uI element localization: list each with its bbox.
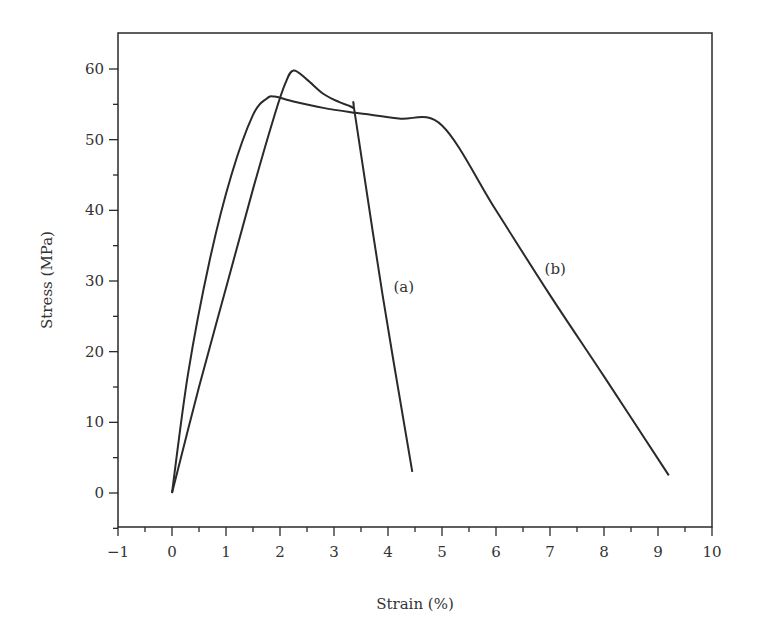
y-tick-label: 10 (85, 413, 104, 431)
y-tick-label: 0 (94, 484, 104, 502)
x-tick-label: 10 (702, 543, 721, 561)
x-axis-ticks: −1012345678910 (107, 527, 722, 561)
x-tick-label: 8 (599, 543, 609, 561)
annotations: (a)(b) (393, 260, 566, 296)
x-tick-label: 9 (653, 543, 663, 561)
y-tick-label: 40 (85, 201, 104, 219)
y-axis-ticks: 0102030405060 (85, 60, 118, 528)
y-tick-label: 50 (85, 131, 104, 149)
series-annotation: (a) (393, 278, 414, 296)
stress-strain-chart: −1012345678910 0102030405060 (a)(b) Stra… (0, 0, 757, 640)
series-line-b (172, 96, 669, 493)
x-tick-label: 2 (275, 543, 285, 561)
x-tick-label: 3 (329, 543, 339, 561)
x-tick-label: 1 (221, 543, 231, 561)
y-axis-label: Stress (MPa) (38, 231, 56, 329)
series-layer (172, 70, 669, 493)
x-tick-label: 0 (167, 543, 177, 561)
x-axis-label: Strain (%) (376, 595, 454, 613)
y-tick-label: 20 (85, 343, 104, 361)
x-tick-label: 4 (383, 543, 393, 561)
x-tick-label: 7 (545, 543, 555, 561)
x-tick-label: 5 (437, 543, 447, 561)
x-tick-label: 6 (491, 543, 501, 561)
series-annotation: (b) (545, 260, 566, 278)
y-tick-label: 60 (85, 60, 104, 78)
x-tick-label: −1 (107, 543, 129, 561)
series-line-a (172, 70, 412, 493)
plot-frame (118, 33, 712, 527)
y-tick-label: 30 (85, 272, 104, 290)
